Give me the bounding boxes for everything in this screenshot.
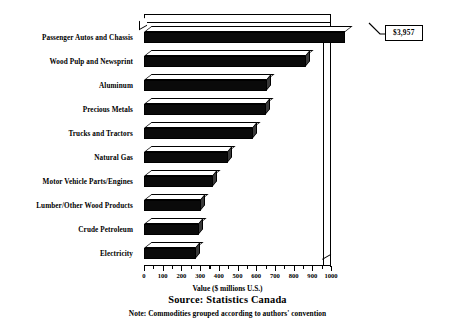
chart-figure: Passenger Autos and Chassis Wood Pulp an…	[0, 0, 455, 328]
x-tick-label-700: 700	[270, 272, 280, 279]
category-label-trucks-and-tractors: Trucks and Tractors	[0, 130, 133, 138]
x-tick-0	[144, 266, 145, 271]
bar-front-face	[144, 104, 266, 115]
x-tick-label-100: 100	[158, 272, 168, 279]
x-tick-600	[256, 266, 257, 271]
bar-lumber-other-wood-products	[139, 194, 196, 215]
bar-front-face	[144, 56, 306, 67]
bar-crude-petroleum	[139, 218, 194, 239]
x-tick-minor-450	[228, 266, 229, 269]
plot-area: 01002003004005006007008009001000	[139, 14, 339, 269]
x-tick-label-1000: 1000	[324, 272, 337, 279]
category-label-lumber-other-wood-products: Lumber/Other Wood Products	[0, 202, 133, 210]
category-axis-labels: Passenger Autos and Chassis Wood Pulp an…	[0, 28, 137, 260]
bar-front-face	[144, 128, 253, 139]
x-tick-100	[163, 266, 164, 271]
x-tick-500	[238, 266, 239, 271]
bar-natural-gas	[139, 146, 223, 167]
x-tick-800	[294, 266, 295, 271]
x-tick-minor-950	[322, 266, 323, 269]
x-tick-minor-650	[266, 266, 267, 269]
category-label-crude-petroleum: Crude Petroleum	[0, 226, 133, 234]
x-tick-minor-350	[209, 266, 210, 269]
value-callout-box: $3,957	[385, 25, 423, 41]
category-label-wood-pulp-and-newsprint: Wood Pulp and Newsprint	[0, 58, 133, 66]
x-tick-label-500: 500	[233, 272, 243, 279]
x-tick-200	[181, 266, 182, 271]
x-tick-label-600: 600	[251, 272, 261, 279]
bar-motor-vehicle-parts-engines	[139, 170, 208, 191]
bar-front-face	[144, 32, 345, 43]
bar-wood-pulp-and-newsprint	[139, 50, 301, 71]
plot-frame-top-slab	[144, 14, 331, 23]
x-tick-label-800: 800	[289, 272, 299, 279]
x-axis-title: Value ($ millions U.S.)	[0, 284, 455, 293]
category-label-precious-metals: Precious Metals	[0, 106, 133, 114]
bar-trucks-and-tractors	[139, 122, 248, 143]
x-tick-label-900: 900	[307, 272, 317, 279]
x-tick-label-200: 200	[176, 272, 186, 279]
bar-end-cap	[252, 122, 257, 139]
x-tick-300	[200, 266, 201, 271]
bar-precious-metals	[139, 98, 261, 119]
x-tick-label-0: 0	[142, 272, 145, 279]
x-tick-900	[312, 266, 313, 271]
x-tick-minor-150	[172, 266, 173, 269]
x-tick-minor-550	[247, 266, 248, 269]
bar-aluminum	[139, 74, 262, 95]
x-tick-label-400: 400	[214, 272, 224, 279]
bar-front-face	[144, 176, 213, 187]
bar-front-face	[144, 200, 201, 211]
category-label-motor-vehicle-parts-engines: Motor Vehicle Parts/Engines	[0, 178, 133, 186]
x-axis: 01002003004005006007008009001000	[144, 265, 331, 268]
note-caption: Note: Commodities grouped according to a…	[0, 309, 455, 318]
x-tick-700	[275, 266, 276, 271]
bar-electricity	[139, 242, 191, 263]
x-tick-400	[219, 266, 220, 271]
x-tick-minor-850	[303, 266, 304, 269]
x-tick-1000	[331, 266, 332, 271]
bar-passenger-autos-and-chassis	[139, 26, 340, 47]
x-tick-minor-750	[284, 266, 285, 269]
x-tick-label-300: 300	[195, 272, 205, 279]
bar-front-face	[144, 248, 196, 259]
bar-end-cap	[266, 74, 271, 91]
bar-front-face	[144, 152, 228, 163]
bar-end-cap	[195, 242, 200, 259]
x-tick-minor-250	[191, 266, 192, 269]
category-label-aluminum: Aluminum	[0, 82, 133, 90]
bar-front-face	[144, 224, 199, 235]
category-label-natural-gas: Natural Gas	[0, 154, 133, 162]
category-label-electricity: Electricity	[0, 250, 133, 258]
category-label-passenger-autos-and-chassis: Passenger Autos and Chassis	[0, 34, 133, 42]
source-caption: Source: Statistics Canada	[0, 294, 455, 305]
bar-front-face	[144, 80, 267, 91]
x-tick-minor-50	[153, 266, 154, 269]
bar-series	[139, 25, 339, 265]
